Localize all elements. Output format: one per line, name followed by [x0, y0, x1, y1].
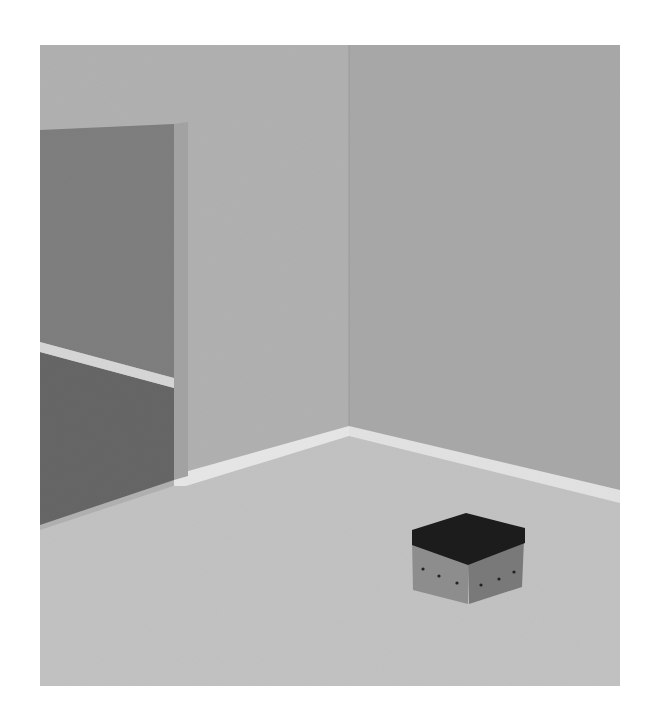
- doorway-upper: [40, 124, 174, 378]
- room-scene: [0, 0, 660, 727]
- door-frame: [174, 122, 188, 480]
- right-wall: [349, 45, 620, 492]
